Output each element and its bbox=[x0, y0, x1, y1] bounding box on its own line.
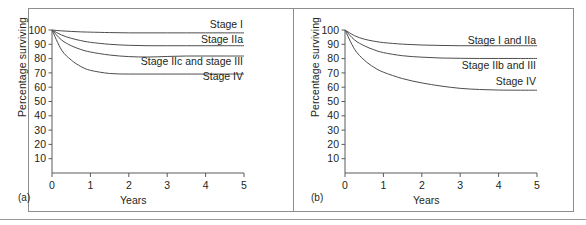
y-tick-label: 30 bbox=[34, 124, 46, 136]
y-tick-label: 90 bbox=[34, 38, 46, 50]
x-tick-label: 0 bbox=[342, 179, 348, 191]
x-tick-label: 4 bbox=[203, 179, 209, 191]
y-tick-label: 100 bbox=[28, 24, 46, 36]
x-tick-label: 3 bbox=[164, 179, 170, 191]
y-tick-label: 20 bbox=[34, 138, 46, 150]
y-tick-label: 100 bbox=[321, 24, 339, 36]
series-label-2: Stage IIb and III bbox=[462, 59, 536, 71]
survival-plot-b: 102030405060708090100012345Stage I and I… bbox=[293, 8, 586, 212]
y-tick-label: 20 bbox=[327, 138, 339, 150]
y-tick-label: 40 bbox=[327, 109, 339, 121]
series-label-3: Stage IIc and stage III bbox=[141, 55, 243, 67]
series-label-1: Stage I and IIa bbox=[468, 34, 536, 46]
y-tick-label: 30 bbox=[327, 124, 339, 136]
y-tick-label: 70 bbox=[327, 67, 339, 79]
x-tick-label: 1 bbox=[380, 179, 386, 191]
x-tick-label: 1 bbox=[87, 179, 93, 191]
y-tick-label: 50 bbox=[327, 95, 339, 107]
y-tick-label: 80 bbox=[34, 52, 46, 64]
bottom-rule bbox=[0, 219, 586, 220]
y-tick-label: 90 bbox=[327, 38, 339, 50]
y-tick-label: 80 bbox=[327, 52, 339, 64]
survival-plot-a: 102030405060708090100012345Stage IStage … bbox=[0, 8, 293, 212]
x-tick-label: 4 bbox=[496, 179, 502, 191]
y-tick-label: 10 bbox=[327, 152, 339, 164]
y-tick-label: 60 bbox=[327, 81, 339, 93]
figure-container: Percentage surviving Years (a) 102030405… bbox=[0, 0, 586, 225]
series-label-2: Stage IIa bbox=[201, 33, 243, 45]
series-label-4: Stage IV bbox=[203, 70, 243, 82]
x-tick-label: 3 bbox=[457, 179, 463, 191]
x-tick-label: 2 bbox=[126, 179, 132, 191]
y-tick-label: 10 bbox=[34, 152, 46, 164]
chart-panel-b: Percentage surviving Years (b) 102030405… bbox=[293, 8, 586, 212]
y-tick-label: 40 bbox=[34, 109, 46, 121]
series-label-1: Stage I bbox=[210, 18, 243, 30]
chart-panel-a: Percentage surviving Years (a) 102030405… bbox=[0, 8, 293, 212]
x-tick-label: 5 bbox=[241, 179, 247, 191]
x-tick-label: 5 bbox=[534, 179, 540, 191]
y-tick-label: 60 bbox=[34, 81, 46, 93]
y-tick-label: 70 bbox=[34, 67, 46, 79]
series-label-3: Stage IV bbox=[496, 75, 536, 87]
y-tick-label: 50 bbox=[34, 95, 46, 107]
x-tick-label: 0 bbox=[49, 179, 55, 191]
x-tick-label: 2 bbox=[419, 179, 425, 191]
